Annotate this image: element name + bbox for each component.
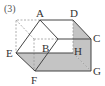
vertex-label-d: D	[70, 7, 78, 19]
vertex-label-a: A	[36, 7, 44, 19]
vertex-label-h: H	[74, 45, 82, 57]
vertex-label-g: G	[93, 65, 101, 77]
vertex-label-b: B	[42, 42, 49, 54]
vertex-label-c: C	[93, 32, 100, 44]
figure-number: (3)	[4, 3, 16, 15]
vertex-label-f: F	[31, 74, 37, 86]
geometry-figure: (3) A D C B E F G H	[0, 0, 105, 86]
vertex-label-e: E	[6, 47, 13, 59]
